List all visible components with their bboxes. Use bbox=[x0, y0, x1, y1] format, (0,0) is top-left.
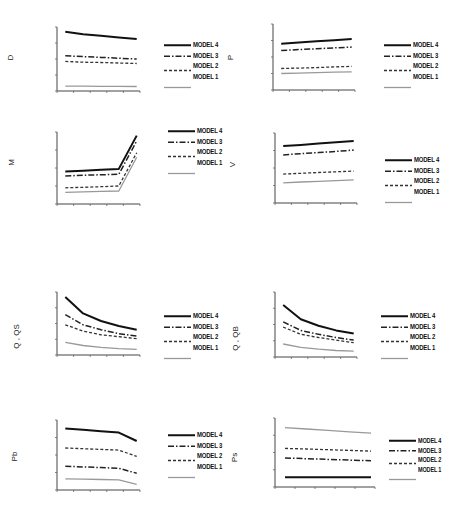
series-line-model-1 bbox=[283, 180, 354, 183]
series-line-model-1 bbox=[285, 428, 371, 434]
legend-label: MODEL 2 bbox=[413, 61, 438, 72]
y-axis-label: D bbox=[6, 55, 15, 61]
series-line-model-2 bbox=[65, 61, 136, 63]
legend-label: MODEL 1 bbox=[197, 158, 222, 169]
y-axis-label: V bbox=[228, 162, 237, 167]
y-axis-label: Q , QB bbox=[231, 326, 240, 350]
legend-label: MODEL 2 bbox=[418, 455, 441, 465]
legend-label: MODEL 2 bbox=[193, 61, 218, 72]
legend-label: MODEL 1 bbox=[193, 72, 218, 83]
legend-label: MODEL 4 bbox=[418, 436, 441, 446]
y-axis-label: Q , QS bbox=[12, 324, 21, 348]
y-axis-label: Pb bbox=[10, 452, 19, 462]
legend-label: MODEL 2 bbox=[197, 147, 222, 158]
plot-area bbox=[273, 416, 377, 489]
series-line-model-2 bbox=[281, 66, 352, 68]
legend-label: MODEL 3 bbox=[197, 441, 222, 452]
series-line-model-1 bbox=[65, 342, 136, 349]
legend-label: MODEL 3 bbox=[193, 322, 218, 333]
series-line-model-3 bbox=[281, 47, 352, 50]
series-line-model-1 bbox=[283, 344, 354, 351]
plot-area bbox=[273, 290, 359, 359]
legend-label: MODEL 4 bbox=[197, 430, 222, 441]
series-line-model-3 bbox=[65, 56, 136, 59]
legend-label: MODEL 1 bbox=[193, 343, 218, 354]
series-line-model-3 bbox=[283, 150, 354, 155]
legend-swatch bbox=[384, 187, 414, 206]
plot-area bbox=[55, 290, 142, 357]
legend-label: MODEL 4 bbox=[410, 311, 435, 322]
legend-label: MODEL 2 bbox=[414, 176, 439, 187]
series-line-model-4 bbox=[65, 32, 136, 39]
legend-label: MODEL 1 bbox=[418, 465, 441, 475]
series-line-model-2 bbox=[65, 448, 136, 456]
series-line-model-3 bbox=[285, 458, 371, 461]
y-axis-label: M bbox=[7, 159, 16, 166]
legend-label: MODEL 2 bbox=[197, 451, 222, 462]
legend-swatch bbox=[167, 158, 197, 177]
legend-label: MODEL 4 bbox=[413, 40, 438, 51]
series-line-model-2 bbox=[283, 171, 354, 174]
plot-area bbox=[273, 131, 359, 205]
series-line-model-3 bbox=[65, 315, 136, 336]
legend-swatch bbox=[388, 465, 418, 483]
series-line-model-4 bbox=[283, 141, 354, 146]
plot-area bbox=[55, 25, 142, 93]
legend-label: MODEL 3 bbox=[413, 51, 438, 62]
series-line-model-3 bbox=[65, 466, 136, 473]
series-line-model-4 bbox=[65, 428, 136, 441]
y-axis-label: Ps bbox=[230, 453, 239, 462]
legend-swatch bbox=[380, 343, 410, 362]
legend-label: MODEL 2 bbox=[410, 332, 435, 343]
series-line-model-4 bbox=[65, 136, 136, 172]
legend-label: MODEL 1 bbox=[413, 72, 438, 83]
y-axis-label: P bbox=[226, 55, 235, 60]
series-line-model-1 bbox=[65, 479, 136, 485]
series-line-model-2 bbox=[285, 448, 371, 451]
series-line-model-1 bbox=[281, 72, 352, 74]
legend-swatch bbox=[163, 343, 193, 362]
legend-label: MODEL 3 bbox=[193, 51, 218, 62]
plot-area bbox=[55, 418, 142, 492]
legend-label: MODEL 4 bbox=[414, 155, 439, 166]
legend-label: MODEL 3 bbox=[414, 166, 439, 177]
legend-label: MODEL 1 bbox=[197, 462, 222, 473]
legend-label: MODEL 3 bbox=[410, 322, 435, 333]
legend-swatch bbox=[383, 72, 413, 91]
legend-label: MODEL 3 bbox=[418, 446, 441, 456]
legend-label: MODEL 4 bbox=[197, 126, 222, 137]
legend-label: MODEL 1 bbox=[410, 343, 435, 354]
plot-area bbox=[55, 130, 142, 206]
plot-area bbox=[271, 22, 357, 92]
legend-swatch bbox=[167, 462, 197, 481]
series-line-model-4 bbox=[281, 39, 352, 44]
series-line-model-4 bbox=[65, 297, 136, 330]
legend-label: MODEL 1 bbox=[414, 187, 439, 198]
legend-label: MODEL 3 bbox=[197, 137, 222, 148]
legend-swatch bbox=[163, 72, 193, 91]
legend-label: MODEL 2 bbox=[193, 332, 218, 343]
legend-label: MODEL 4 bbox=[193, 40, 218, 51]
series-line-model-4 bbox=[283, 305, 354, 334]
legend-label: MODEL 4 bbox=[193, 311, 218, 322]
